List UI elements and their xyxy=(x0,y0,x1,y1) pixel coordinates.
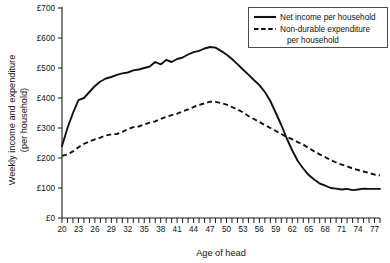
y-tick-label: £200 xyxy=(37,154,56,163)
series-line-net-income xyxy=(62,47,380,190)
x-tick-label: 41 xyxy=(173,225,183,234)
x-tick-label: 38 xyxy=(156,225,166,234)
x-tick-label: 20 xyxy=(57,225,67,234)
x-tick-label: 62 xyxy=(288,225,298,234)
x-tick-label: 29 xyxy=(107,225,117,234)
x-tick-label: 65 xyxy=(304,225,314,234)
x-tick-label: 50 xyxy=(222,225,232,234)
y-axis-title: Weekly income and expenditure (per house… xyxy=(7,55,29,186)
y-axis-title-line2: (per household) xyxy=(19,88,29,152)
y-tick-label: £100 xyxy=(37,184,56,193)
y-axis-title-line1: Weekly income and expenditure xyxy=(7,55,17,186)
x-tick-label: 77 xyxy=(370,225,380,234)
x-tick-label: 68 xyxy=(321,225,331,234)
y-axis-ticks: £0£100£200£300£400£500£600£700 xyxy=(37,4,62,223)
chart-figure: Weekly income and expenditure (per house… xyxy=(0,0,390,263)
y-tick-label: £300 xyxy=(37,124,56,133)
x-axis-ticks: 2023262932353841444750535659626568717477 xyxy=(57,218,380,234)
y-tick-label: £400 xyxy=(37,94,56,103)
x-tick-label: 44 xyxy=(189,225,199,234)
x-tick-label: 32 xyxy=(123,225,133,234)
legend-label-nondurable-expenditure-line2: per household xyxy=(287,36,339,45)
x-tick-label: 53 xyxy=(238,225,248,234)
series-layer xyxy=(62,47,380,190)
y-tick-label: £0 xyxy=(46,214,56,223)
legend-label-nondurable-expenditure: Non-durable expenditure xyxy=(280,25,371,34)
legend: Net income per household Non-durable exp… xyxy=(249,8,388,48)
x-tick-label: 71 xyxy=(337,225,347,234)
x-tick-label: 47 xyxy=(205,225,215,234)
chart-svg: Weekly income and expenditure (per house… xyxy=(0,0,390,263)
y-tick-label: £600 xyxy=(37,34,56,43)
x-axis-title: Age of head xyxy=(196,248,246,258)
x-tick-label: 23 xyxy=(74,225,84,234)
y-tick-label: £500 xyxy=(37,64,56,73)
series-line-nondurable-expenditure xyxy=(62,102,380,176)
x-tick-label: 26 xyxy=(90,225,100,234)
x-tick-label: 35 xyxy=(140,225,150,234)
x-tick-label: 74 xyxy=(354,225,364,234)
y-tick-label: £700 xyxy=(37,4,56,13)
x-tick-label: 56 xyxy=(255,225,265,234)
legend-label-net-income: Net income per household xyxy=(280,13,376,22)
x-tick-label: 59 xyxy=(271,225,281,234)
